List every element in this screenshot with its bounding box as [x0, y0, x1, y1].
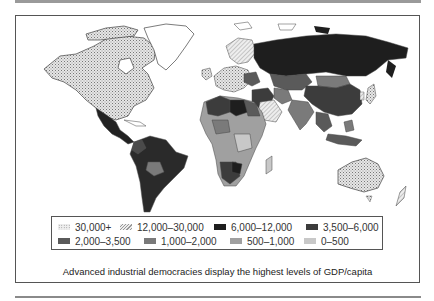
legend-label: 1,000–2,000 — [161, 236, 217, 247]
legend-label: 2,000–3,500 — [75, 236, 131, 247]
legend-item: 2,000–3,500 — [58, 236, 144, 247]
legend-label: 500–1,000 — [247, 236, 294, 247]
region-africa — [200, 96, 266, 186]
region-australia — [338, 158, 384, 192]
dotted-swatch-icon — [58, 224, 70, 230]
region-north-america — [44, 26, 156, 120]
legend-item: 12,000–30,000 — [120, 222, 214, 233]
solid-swatch-icon — [306, 224, 318, 230]
legend-item: 30,000+ — [58, 222, 120, 233]
legend-label: 12,000–30,000 — [137, 222, 204, 233]
legend-item: 500–1,000 — [230, 236, 304, 247]
world-map — [16, 16, 419, 216]
legend-row-2: 2,000–3,500 1,000–2,000 500–1,000 0–500 — [58, 234, 349, 248]
solid-swatch-icon — [304, 238, 316, 244]
solid-swatch-icon — [144, 238, 156, 244]
region-new-zealand — [396, 186, 406, 206]
hatched-swatch-icon — [120, 224, 132, 230]
legend-label: 3,500–6,000 — [323, 222, 379, 233]
legend-label: 0–500 — [321, 236, 349, 247]
legend-item: 3,500–6,000 — [306, 222, 379, 233]
region-russia — [254, 34, 408, 76]
legend-item: 6,000–12,000 — [214, 222, 306, 233]
figure-caption: Advanced industrial democracies display … — [15, 266, 420, 277]
solid-swatch-icon — [58, 238, 70, 244]
legend-item: 0–500 — [304, 236, 349, 247]
solid-swatch-icon — [230, 238, 242, 244]
bottom-rule — [15, 296, 421, 298]
region-south-america — [130, 136, 188, 212]
legend-label: 30,000+ — [75, 222, 111, 233]
top-rule — [15, 0, 421, 3]
region-india — [288, 100, 314, 130]
legend-item: 1,000–2,000 — [144, 236, 230, 247]
map-legend: 30,000+ 12,000–30,000 6,000–12,000 3,500… — [51, 216, 383, 250]
legend-row-1: 30,000+ 12,000–30,000 6,000–12,000 3,500… — [58, 220, 379, 234]
legend-label: 6,000–12,000 — [231, 222, 292, 233]
solid-swatch-icon — [214, 224, 226, 230]
region-europe — [202, 38, 260, 92]
